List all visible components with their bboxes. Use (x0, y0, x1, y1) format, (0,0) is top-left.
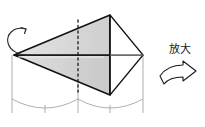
block-arrow-right (160, 61, 196, 84)
lower-right-triangle (110, 55, 143, 95)
lower-wedge-face (14, 55, 110, 95)
upper-right-triangle (110, 15, 143, 55)
upper-wedge-face (14, 15, 110, 55)
cylinder-right-bottom-arc (78, 99, 143, 108)
figure-canvas: 放大 (0, 0, 205, 127)
diagram-svg (0, 0, 205, 127)
magnify-label: 放大 (158, 43, 202, 56)
